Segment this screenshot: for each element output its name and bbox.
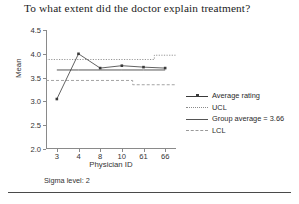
chart-legend: Average ratingUCLGroup average = 3.66LCL bbox=[186, 90, 298, 136]
legend-swatch bbox=[186, 91, 208, 100]
y-tick-label: 4.0 bbox=[30, 49, 41, 58]
legend-item: UCL bbox=[186, 102, 298, 114]
series-plot bbox=[46, 30, 176, 149]
legend-label: Average rating bbox=[212, 91, 260, 100]
y-tick-mark bbox=[43, 149, 46, 150]
sigma-level-note: Sigma level: 2 bbox=[44, 176, 90, 185]
data-point-marker bbox=[56, 98, 59, 101]
x-axis-title: Physician ID bbox=[46, 160, 176, 169]
figure-divider bbox=[8, 192, 291, 193]
y-tick-label: 3.5 bbox=[30, 73, 41, 82]
legend-label: UCL bbox=[212, 103, 227, 112]
data-point-marker bbox=[142, 66, 145, 69]
ucl-line bbox=[46, 55, 176, 59]
legend-item: Average rating bbox=[186, 90, 298, 102]
data-point-marker bbox=[121, 64, 124, 67]
average-rating-line bbox=[57, 54, 165, 99]
y-tick-label: 2.5 bbox=[30, 121, 41, 130]
legend-label: LCL bbox=[212, 126, 226, 135]
legend-swatch bbox=[186, 114, 208, 123]
data-point-marker bbox=[164, 67, 167, 70]
legend-swatch bbox=[186, 103, 208, 112]
y-axis-title: Mean bbox=[14, 58, 23, 78]
y-tick-label: 4.5 bbox=[30, 26, 41, 35]
legend-swatch bbox=[186, 126, 208, 135]
control-chart-figure: To what extent did the doctor explain tr… bbox=[0, 0, 299, 204]
data-point-marker bbox=[99, 67, 102, 70]
legend-item: LCL bbox=[186, 125, 298, 137]
legend-marker-icon bbox=[196, 94, 199, 97]
y-tick-label: 2.0 bbox=[30, 145, 41, 154]
plot-area: 4.54.03.53.02.52.0 348106166 bbox=[46, 30, 176, 149]
legend-label: Group average = 3.66 bbox=[212, 114, 284, 123]
y-tick-label: 3.0 bbox=[30, 97, 41, 106]
legend-item: Group average = 3.66 bbox=[186, 113, 298, 125]
page-title: To what extent did the doctor explain tr… bbox=[24, 2, 284, 15]
data-point-marker bbox=[77, 53, 80, 56]
